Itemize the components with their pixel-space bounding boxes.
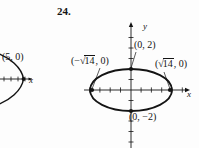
leader-line-focus-right — [164, 72, 170, 89]
focus-left-suffix: , 0) — [95, 55, 108, 66]
y-axis-arrowhead — [129, 22, 133, 27]
bottom-vertex-label: (0, −2) — [129, 112, 156, 122]
radicand-left: 14 — [84, 55, 95, 66]
prev-vertex-label: (5, 0) — [2, 52, 24, 62]
radical-left: √14 — [80, 55, 96, 66]
prev-x-axis-label: x — [29, 76, 33, 85]
leader-line-focus-left — [92, 68, 100, 89]
figure-page: 24. — [0, 0, 199, 148]
x-axis-label: x — [187, 90, 191, 99]
prev-vertex-point — [22, 77, 26, 81]
radicand-right: 14 — [163, 58, 174, 69]
radical-right: √14 — [158, 58, 174, 69]
focus-right-label: (√14, 0) — [155, 58, 187, 69]
figure-artwork — [0, 0, 199, 148]
focus-left-prefix: (− — [71, 55, 80, 66]
top-vertex-label: (0, 2) — [134, 40, 156, 50]
leader-line-top-vertex — [131, 52, 136, 68]
focus-right-suffix: , 0) — [174, 58, 187, 69]
focus-left-label: (−√14, 0) — [71, 55, 109, 66]
y-axis-label: y — [143, 22, 147, 31]
